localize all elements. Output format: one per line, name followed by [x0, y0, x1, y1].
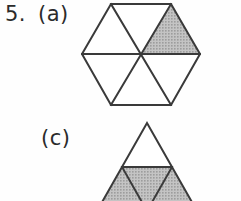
triangle-segment-bottom-right-shaded [147, 167, 197, 201]
hexagon-divider-diagonal-2 [111, 4, 171, 105]
figure-a-hexagon [82, 4, 200, 105]
triangle-divider-right [147, 167, 172, 201]
figure-c-triangle [97, 123, 197, 201]
hexagon-divider-diagonal-1 [111, 4, 171, 105]
worksheet-page: 5. (a) (c) [0, 0, 241, 201]
figures-canvas [0, 0, 241, 201]
hexagon-segment-bottom [111, 54, 171, 105]
question-number: 5. [5, 2, 26, 26]
hexagon-segment-top [111, 4, 171, 54]
triangle-outline [97, 123, 197, 201]
triangle-segment-top [122, 123, 172, 167]
hexagon-segment-upper-right-shaded [141, 4, 200, 54]
triangle-divider-left [122, 167, 147, 201]
hexagon-segment-upper-left [82, 4, 141, 54]
part-label-a: (a) [38, 2, 69, 26]
hexagon-segment-lower-right [141, 54, 200, 105]
hexagon-segment-lower-left [82, 54, 141, 105]
triangle-segment-middle-inverted-shaded [122, 167, 172, 201]
hexagon-outline [82, 4, 200, 105]
part-label-c: (c) [41, 126, 70, 150]
triangle-segment-bottom-left-shaded [97, 167, 147, 201]
